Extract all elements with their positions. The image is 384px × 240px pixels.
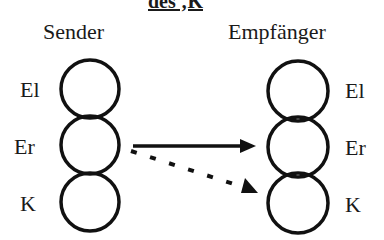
receiver-node-k [268, 173, 328, 233]
sender-node-k [61, 173, 119, 231]
dashed-arrow [131, 151, 258, 193]
receiver-node-er [268, 117, 328, 177]
solid-arrow [133, 139, 256, 153]
receiver-node-el [268, 61, 328, 121]
sender-node-el [61, 60, 119, 118]
sender-node-er [61, 116, 119, 174]
diagram-canvas [0, 0, 384, 240]
